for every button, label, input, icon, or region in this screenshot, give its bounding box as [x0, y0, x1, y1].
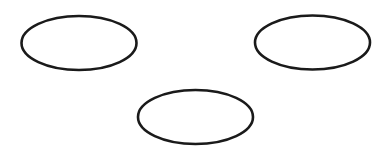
ellipse-top-right	[255, 16, 370, 70]
diagram-svg	[0, 0, 388, 153]
ellipse-bottom-center	[138, 90, 253, 144]
ellipse-top-left	[22, 16, 137, 70]
diagram-canvas	[0, 0, 388, 153]
